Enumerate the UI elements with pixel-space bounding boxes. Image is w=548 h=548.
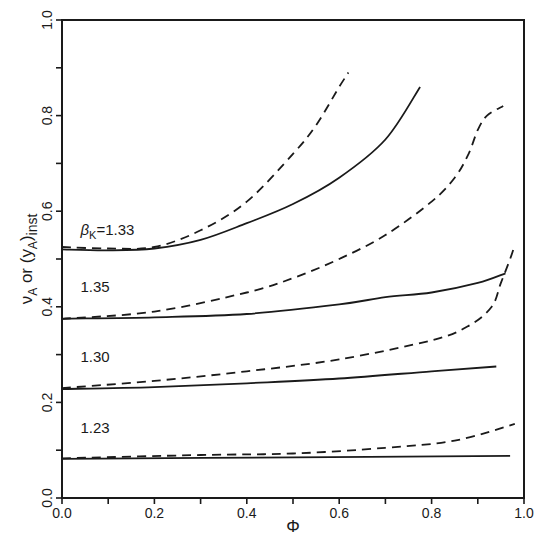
- curve-label: βK=1.33: [79, 221, 134, 241]
- y-title-or: or (y: [17, 249, 36, 288]
- y-tick-label: 0.2: [39, 392, 55, 412]
- y-tick-label: 1.0: [39, 10, 55, 30]
- chart: 0.00.20.40.60.81.0 0.00.20.40.60.81.0 βK…: [0, 0, 548, 548]
- x-tick-label: 1.0: [514, 505, 534, 521]
- curve-label: 1.30: [80, 348, 109, 365]
- curve-label: 1.35: [80, 278, 109, 295]
- y-axis-title: νA or (yA)inst: [17, 214, 40, 305]
- series-line-dashed: [62, 424, 515, 458]
- svg-text:νA or (yA)inst: νA or (yA)inst: [17, 214, 40, 305]
- series-line-dashed: [62, 245, 515, 388]
- x-tick-label: 0.8: [422, 505, 442, 521]
- series-layer: [62, 73, 515, 459]
- series-line-solid: [62, 273, 506, 319]
- x-tick-label: 0.4: [237, 505, 257, 521]
- x-tick-label: 0.0: [52, 505, 72, 521]
- y-title-nu: ν: [17, 296, 36, 305]
- y-title-inst-sub: inst: [24, 214, 40, 236]
- y-title-nu-sub: A: [26, 288, 40, 296]
- y-axis-ticks: 0.00.20.40.60.81.0: [39, 10, 62, 508]
- y-tick-label: 0.0: [39, 488, 55, 508]
- plot-frame: [62, 20, 524, 498]
- x-tick-label: 0.6: [329, 505, 349, 521]
- y-tick-label: 0.4: [39, 297, 55, 317]
- curve-labels: βK=1.331.351.301.23: [79, 221, 134, 436]
- series-line-dashed: [62, 106, 503, 319]
- y-title-y-sub: A: [26, 241, 40, 249]
- series-line-solid: [62, 367, 496, 390]
- y-tick-label: 0.6: [39, 201, 55, 221]
- plot-border: [62, 20, 524, 498]
- curve-label: 1.23: [80, 419, 109, 436]
- y-tick-label: 0.8: [39, 106, 55, 126]
- x-tick-label: 0.2: [145, 505, 165, 521]
- x-axis-title: Φ: [286, 517, 300, 536]
